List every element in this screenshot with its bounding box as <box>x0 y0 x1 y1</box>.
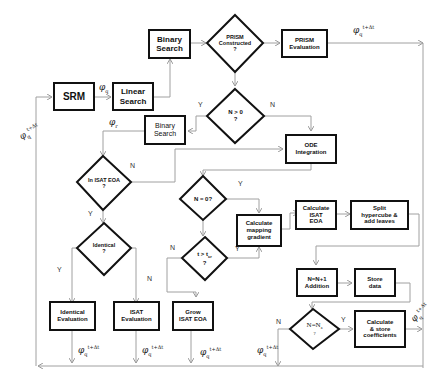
srm-label: SRM <box>63 91 85 103</box>
t-gt-tcr-question: ? <box>203 260 207 267</box>
identical-yes-label: Y <box>57 266 62 273</box>
isat-evaluation-box: ISAT Evaluation <box>113 301 160 331</box>
n-eq-na-expr: N=Na <box>307 321 323 331</box>
flowchart: SRM Linear Search Binary Search PRISM Ev… <box>0 0 443 387</box>
identical-evaluation-box: Identical Evaluation <box>49 301 96 331</box>
t-gt-tcr-no-label: N <box>170 244 175 251</box>
in-isat-eoa-no-label: N <box>130 162 135 169</box>
phi-sup: t+Δt <box>210 346 222 352</box>
binary-search-top-box: Binary Search <box>148 29 191 59</box>
phi-grow-output: φqt+Δt <box>200 346 221 359</box>
phi-r-binary-output: φr <box>109 117 118 129</box>
split-hypercube-label: Split hypercube & add leaves <box>361 205 397 226</box>
t-gt-tcr-label: t > tcr ? <box>182 249 227 269</box>
phi-sub: r <box>115 123 117 129</box>
n-eq-na-question: ? <box>313 331 315 337</box>
ode-integration-label: ODE Integration <box>296 142 327 156</box>
n-eq-0-label: N = 0? <box>180 193 226 205</box>
grow-isat-eoa-box: Grow ISAT EOA <box>172 301 214 331</box>
srm-box: SRM <box>53 82 95 111</box>
isat-evaluation-label: ISAT Evaluation <box>121 309 151 323</box>
identical-no-label: N <box>147 275 152 282</box>
binary-search-top-label: Binary Search <box>156 35 183 53</box>
in-isat-eoa-text: In ISAT EOA ? <box>88 177 120 190</box>
prism-constructed-text: PRISM Constructed ? <box>219 34 251 53</box>
linear-search-label: Linear Search <box>120 87 147 105</box>
n-eq-na-sub: a <box>321 326 323 331</box>
phi-sub: q <box>359 31 362 37</box>
store-data-label: Store data <box>367 276 382 290</box>
n-eq-na-no-label: N <box>276 318 281 325</box>
phi-sub: q <box>148 351 151 357</box>
phi-prism-output: φqt+Δt <box>353 24 374 37</box>
split-hypercube-box: Split hypercube & add leaves <box>350 200 409 230</box>
prism-evaluation-box: PRISM Evaluation <box>281 29 328 58</box>
phi-n-eq-na-output: φqt+Δt <box>257 344 278 357</box>
phi-identical-output: φqt+Δt <box>78 344 99 357</box>
n-addition-box: N=N+1 Addition <box>296 268 338 297</box>
phi-isat-output: φqt+Δt <box>142 344 163 357</box>
store-data-box: Store data <box>354 268 396 297</box>
grow-isat-eoa-label: Grow ISAT EOA <box>179 309 207 323</box>
phi-sup: t+Δt <box>152 344 164 350</box>
identical-evaluation-label: Identical Evaluation <box>57 309 87 323</box>
n-gt-0-yes-label: Y <box>198 101 203 108</box>
identical-label: Identical ? <box>77 238 131 258</box>
prism-evaluation-label: PRISM Evaluation <box>289 37 319 51</box>
phi-sub: q <box>206 353 209 359</box>
in-isat-eoa-label: In ISAT EOA ? <box>77 173 131 193</box>
prism-constructed-label: PRISM Constructed ? <box>207 28 263 58</box>
calc-isat-eoa-label: Calculate ISAT EOA <box>303 205 330 226</box>
t-gt-tcr-sub: cr <box>208 254 212 259</box>
n-gt-0-label: N > 0 ? <box>207 106 264 126</box>
n-eq-na-yes-label: Y <box>341 316 346 323</box>
phi-sub: q <box>84 351 87 357</box>
phi-sup: t+Δt <box>363 24 375 30</box>
n-eq-na-label: N=Na ? <box>290 319 339 339</box>
linear-search-box: Linear Search <box>112 82 154 111</box>
calc-mapping-gradient-box: Calculate mapping gradient <box>236 214 282 247</box>
ode-integration-box: ODE Integration <box>285 134 337 164</box>
phi-sup: t+Δt <box>267 344 279 350</box>
in-isat-eoa-yes-label: Y <box>88 210 93 217</box>
phi-sub: q <box>105 88 108 94</box>
t-gt-tcr-text: t > t <box>197 251 208 257</box>
identical-text: Identical ? <box>93 242 115 255</box>
binary-search-mid-box: Binary Search <box>144 115 186 145</box>
phi-sub: q <box>263 351 266 357</box>
n-eq-0-text: N = 0? <box>194 196 212 203</box>
binary-search-mid-label: Binary Search <box>154 122 176 138</box>
phi-q-srm-output: φq <box>99 82 109 94</box>
n-eq-na-text: N=N <box>307 321 321 329</box>
calc-store-coefficients-box: Calculate & store coefficients <box>354 310 406 348</box>
calc-mapping-gradient-label: Calculate mapping gradient <box>246 220 273 241</box>
phi-sup: t+Δt <box>88 344 100 350</box>
calc-store-coefficients-label: Calculate & store coefficients <box>363 319 396 340</box>
n-addition-label: N=N+1 Addition <box>305 276 329 290</box>
t-gt-tcr-yes-label: Y <box>235 245 240 252</box>
n-eq-0-yes-label: Y <box>238 180 243 187</box>
n-gt-0-text: N > 0 ? <box>228 109 243 123</box>
calc-isat-eoa-box: Calculate ISAT EOA <box>295 200 337 230</box>
t-gt-tcr-expr: t > tcr <box>197 251 212 260</box>
n-gt-0-no-label: N <box>270 101 275 108</box>
